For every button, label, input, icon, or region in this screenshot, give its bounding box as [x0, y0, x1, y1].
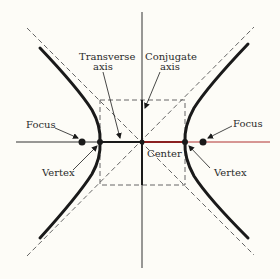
focus-right-point	[200, 139, 207, 146]
focus-left-leader	[55, 128, 78, 138]
diagram-canvas: Transverse axis Conjugate axis Focus Foc…	[0, 0, 280, 279]
vertex-left-point	[97, 139, 103, 145]
hyperbola-left-branch	[40, 48, 100, 238]
label-vertex-right: Vertex	[213, 167, 247, 178]
label-transverse-axis-2: axis	[93, 61, 113, 72]
label-conjugate-axis-2: axis	[160, 61, 180, 72]
center-point	[140, 140, 145, 145]
hyperbola-diagram: Transverse axis Conjugate axis Focus Foc…	[0, 0, 280, 279]
label-focus-right: Focus	[233, 118, 263, 129]
vertex-left-leader	[73, 146, 97, 170]
vertex-right-point	[182, 139, 188, 145]
label-focus-left: Focus	[26, 119, 56, 130]
label-vertex-left: Vertex	[41, 167, 75, 178]
transverse-axis-leader	[103, 72, 120, 138]
hyperbola-right-branch	[185, 44, 248, 238]
label-center: Center	[147, 148, 182, 159]
vertex-right-leader	[189, 146, 210, 168]
focus-left-point	[79, 139, 86, 146]
conjugate-axis-leader	[145, 72, 160, 108]
focus-right-leader	[208, 126, 232, 138]
